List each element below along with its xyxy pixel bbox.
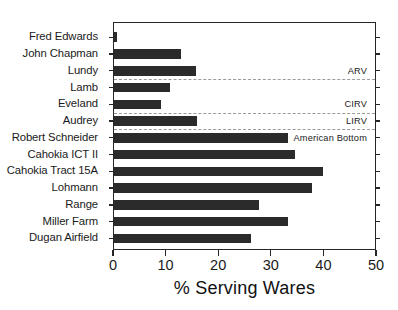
bar-row [114,163,375,180]
category-label: Audrey [63,114,98,126]
bar [114,133,288,143]
y-axis-tick-right [375,120,380,121]
y-axis-tick [109,70,114,71]
bar-row [114,62,375,79]
bar [114,167,323,177]
y-axis-tick-right [375,171,380,172]
category-label: Lamb [70,81,98,93]
x-axis-tick-label: 30 [263,257,279,273]
bar-row [114,46,375,63]
y-axis-tick-right [375,187,380,188]
y-axis-tick [109,120,114,121]
x-axis-tick [270,250,271,256]
region-separator [114,113,375,114]
category-label: Miller Farm [43,215,98,227]
bar [114,217,288,227]
y-axis-tick [109,104,114,105]
y-axis-tick-right [375,137,380,138]
y-axis-tick [109,171,114,172]
bar-row [114,113,375,130]
y-axis-tick [109,238,114,239]
bar-row [114,180,375,197]
x-axis-tick-label: 10 [158,257,174,273]
region-separator [114,129,375,130]
category-label: Robert Schneider [12,131,98,143]
region-label: ARV [348,66,367,76]
y-axis-tick-right [375,154,380,155]
y-axis-tick [109,37,114,38]
region-label: LIRV [346,116,367,126]
bar [114,183,312,193]
x-axis-tick [323,250,324,256]
y-axis-tick-right [375,221,380,222]
category-label: Cahokia Tract 15A [7,164,98,176]
bar-row [114,230,375,247]
bar-row [114,197,375,214]
y-axis-tick-right [375,37,380,38]
bar [114,234,251,244]
y-axis-tick [109,53,114,54]
y-axis-tick-right [375,238,380,239]
category-label: Dugan Airfield [29,231,98,243]
y-axis-tick [109,87,114,88]
region-separator [114,79,375,80]
y-axis-tick [109,187,114,188]
region-label: CIRV [344,99,367,109]
y-axis-tick [109,221,114,222]
plot-area: ARVCIRVLIRVAmerican Bottom [113,22,376,250]
x-axis-tick-label: 50 [368,257,384,273]
bar [114,150,295,160]
bar-row [114,213,375,230]
bar [114,66,196,76]
bar-row [114,29,375,46]
x-axis-tick-labels: 01020304050 [113,257,376,275]
bar-chart: Fred EdwardsJohn ChapmanLundyLambEveland… [0,0,398,310]
x-axis-tick [112,250,113,256]
y-axis-tick-right [375,70,380,71]
bar [114,49,181,59]
x-axis-tick [375,250,376,256]
bar [114,100,161,110]
category-label: Eveland [58,97,98,109]
x-axis-title: % Serving Wares [113,278,376,299]
bar [114,200,259,210]
x-axis-tick-label: 20 [210,257,226,273]
bar-row [114,96,375,113]
region-label: American Bottom [294,133,367,143]
category-label: John Chapman [23,47,98,59]
y-axis-tick [109,204,114,205]
x-axis-tick [218,250,219,256]
bar-row [114,79,375,96]
bar [114,116,197,126]
x-axis-tick-label: 40 [315,257,331,273]
category-axis-labels: Fred EdwardsJohn ChapmanLundyLambEveland… [0,22,106,250]
bar [114,32,117,42]
category-label: Range [65,198,98,210]
y-axis-tick-right [375,204,380,205]
x-axis-tick [165,250,166,256]
y-axis-tick-right [375,87,380,88]
x-axis-ticks [113,250,376,256]
y-axis-tick [109,137,114,138]
category-label: Lundy [68,64,98,76]
category-label: Fred Edwards [29,30,98,42]
y-axis-tick-right [375,104,380,105]
y-axis-tick [109,154,114,155]
category-label: Lohmann [52,181,98,193]
bar [114,83,170,93]
x-axis-tick-label: 0 [109,257,117,273]
bar-row [114,146,375,163]
category-label: Cahokia ICT II [27,148,98,160]
y-axis-tick-right [375,53,380,54]
